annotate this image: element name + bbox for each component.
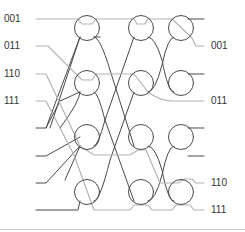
input-label-110: 110 xyxy=(4,69,20,79)
output-label-011: 011 xyxy=(211,96,227,106)
butterfly-network-diagram xyxy=(0,0,245,232)
switch-s3-r1 xyxy=(169,16,194,41)
input-label-001: 001 xyxy=(4,14,21,24)
output-label-001: 001 xyxy=(211,41,228,51)
switch-s2-r4 xyxy=(129,180,154,205)
switch-s3-r4 xyxy=(169,180,194,205)
bottom-divider xyxy=(0,229,245,230)
switch-s2-r3 xyxy=(129,125,154,150)
input-label-011: 011 xyxy=(4,41,20,51)
switch-s3-r2 xyxy=(169,71,194,96)
switch-s1-r3 xyxy=(75,125,100,150)
input-label-111: 111 xyxy=(4,96,19,106)
switches xyxy=(75,16,194,205)
switch-s1-r4 xyxy=(75,180,100,205)
switch-s1-r2 xyxy=(75,71,100,96)
switch-s1-r1 xyxy=(75,16,100,41)
output-label-111: 111 xyxy=(211,205,226,215)
output-label-110: 110 xyxy=(211,178,227,188)
switch-s2-r1 xyxy=(129,16,154,41)
switch-s3-r3 xyxy=(169,125,194,150)
switch-s2-r2 xyxy=(129,71,154,96)
